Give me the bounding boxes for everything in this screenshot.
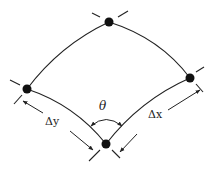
delta-x-arrow-lower xyxy=(120,134,137,152)
node-extensions xyxy=(10,11,204,161)
delta-x-label: Δx xyxy=(148,108,163,121)
node-bottom xyxy=(102,140,111,149)
node-right xyxy=(186,74,195,83)
theta-arc xyxy=(91,120,122,127)
shear-element-diagram: θ Δy Δx xyxy=(0,0,213,170)
delta-y-arrow xyxy=(23,101,43,113)
edge-top-right xyxy=(109,22,190,78)
node-top xyxy=(105,18,114,27)
theta-label: θ xyxy=(99,99,107,113)
edge-left-bottom xyxy=(27,89,106,144)
delta-y-arrow-lower xyxy=(70,131,93,150)
delta-y-label: Δy xyxy=(45,115,60,128)
edge-left-top xyxy=(27,22,109,89)
node-left xyxy=(23,85,32,94)
delta-x-arrow xyxy=(168,90,200,110)
nodes xyxy=(23,18,195,149)
